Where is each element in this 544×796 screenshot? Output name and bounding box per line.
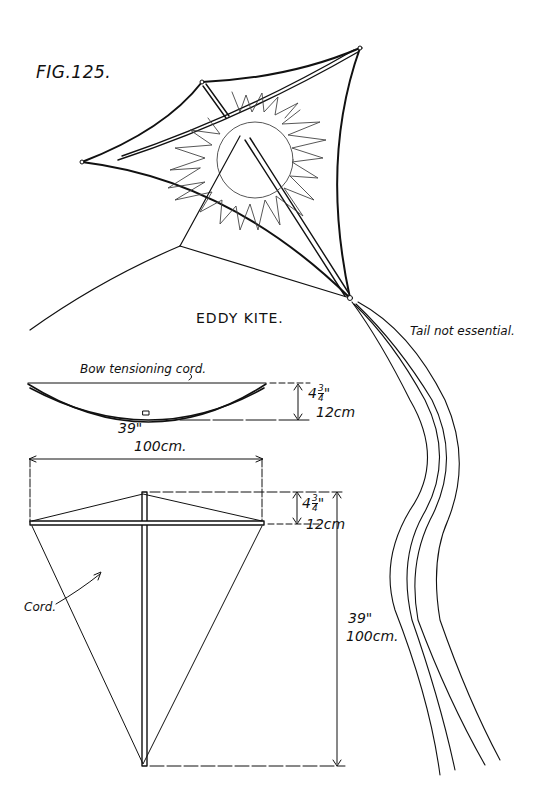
- frame-height-metric: 100cm.: [346, 628, 399, 644]
- eddy-kite-drawing: [0, 0, 544, 796]
- bridle: [30, 136, 350, 330]
- figure-number: FIG.125.: [36, 62, 111, 82]
- frame-top-imperial: 434": [302, 494, 324, 513]
- bow-cord-label: Bow tensioning cord.: [80, 362, 206, 376]
- frame-top-metric: 12cm: [306, 516, 345, 532]
- bow-depth-metric: 12cm: [316, 404, 355, 420]
- bow-width-imperial: 39": [118, 420, 142, 436]
- kite-frame: [30, 492, 345, 766]
- bow-depth-imperial: 434": [308, 384, 330, 403]
- bow-width-metric: 100cm.: [134, 438, 187, 454]
- kite-tail: [352, 302, 500, 775]
- bow-diagram: [28, 374, 310, 422]
- figure-title: EDDY KITE.: [196, 310, 284, 326]
- kite-perspective: [82, 48, 360, 298]
- cord-label: Cord.: [24, 600, 56, 614]
- sun-decoration: [168, 92, 326, 230]
- tail-note: Tail not essential.: [410, 324, 515, 338]
- bow-depth-whole: 4: [308, 385, 317, 401]
- frame-height-imperial: 39": [348, 610, 372, 626]
